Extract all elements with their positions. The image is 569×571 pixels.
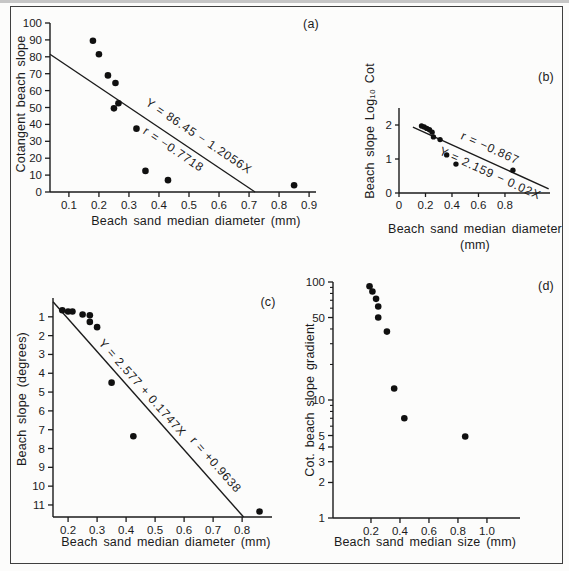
panel-c-y-tick-label: 10 (32, 480, 45, 492)
panel-d-y-tick-label: 100 (306, 276, 325, 288)
panel-d-point (369, 288, 376, 295)
panel-d-point (462, 433, 469, 440)
panel-a-y-tick-label: 10 (29, 169, 42, 181)
panel-a-point (112, 80, 119, 87)
panel-a-point (291, 182, 298, 189)
panel-c-point (94, 324, 101, 331)
panel-a-y-tick-label: 100 (23, 17, 42, 29)
panel-d-point (375, 303, 382, 310)
panel-c-y-tick-label: 8 (39, 443, 45, 455)
panel-c-point (130, 433, 137, 440)
panel-label-a: (a) (303, 17, 319, 31)
panel-d-point (373, 296, 380, 303)
panel-a-x-tick-label: 0.3 (121, 199, 137, 211)
panel-a-y-tick-label: 80 (29, 51, 42, 63)
panel-a-y-tick-label: 30 (29, 135, 42, 147)
panel-b-x-tick-label: 0.4 (444, 199, 461, 211)
panel-b-xlabel: Beach sand median diameter (388, 222, 562, 236)
panel-c-point (59, 307, 66, 314)
panel-label-c: (c) (260, 295, 275, 309)
panel-a-point (133, 125, 140, 132)
panel-c-xlabel: Beach sand median diameter (mm) (61, 535, 270, 549)
panel-d-y-tick-label: 5 (319, 430, 325, 442)
panel-label-d: (d) (538, 279, 554, 293)
panel-b-ylabel: Beach slope Log₁₀ Cot (363, 63, 377, 199)
panel-d-xlabel: Beach sand median size (mm) (334, 535, 516, 549)
panel-a-x-tick-label: 0.8 (271, 199, 287, 211)
panel-c-ylabel: Beach slope (degrees) (15, 332, 29, 466)
panel-b-x-tick-label: 0.8 (497, 199, 513, 211)
panel-d-ylabel: Cot. beach slope gradient (303, 323, 317, 476)
panel-d-y-tick-label: 4 (319, 441, 326, 453)
panel-a-point (142, 168, 149, 175)
panel-a-y-tick-label: 0 (36, 186, 42, 198)
panel-d-point (401, 415, 408, 422)
panel-c-annotation: Y = 2.577 + 0.1747X (96, 336, 189, 439)
panel-d-point (384, 328, 391, 335)
panel-d-y-tick-label: 2 (319, 476, 325, 488)
panel-b-y-tick-label: 1 (386, 153, 392, 165)
panel-a-y-tick-label: 50 (29, 102, 42, 114)
panel-c-point (79, 311, 86, 318)
panel-a-x-tick-label: 0.7 (241, 199, 257, 211)
panel-b-point (510, 168, 515, 173)
panel-a-point (105, 72, 112, 79)
panel-a-x-tick-label: 0.2 (91, 199, 107, 211)
panel-b-xlabel-units: (mm) (460, 238, 490, 252)
panel-a-x-tick-label: 0.1 (61, 199, 77, 211)
panel-a-fit-line (50, 54, 255, 192)
panel-d-y-tick-label: 1 (319, 512, 325, 524)
panel-c-y-tick-label: 4 (39, 367, 46, 379)
panel-d-y-tick-label: 3 (319, 456, 325, 468)
panel-a-x-tick-label: 0.4 (151, 199, 168, 211)
panel-c-point (87, 319, 94, 326)
panel-a-point (96, 51, 103, 58)
panel-b-y-tick-label: 2 (386, 119, 392, 131)
panel-b-y-tick-label: 0 (386, 187, 392, 199)
scatter-plots-canvas: 0.10.20.30.40.50.60.70.80.90102030405060… (0, 0, 569, 571)
panel-a-y-tick-label: 20 (29, 152, 42, 164)
panel-a-point (90, 37, 97, 44)
panel-c-y-tick-label: 11 (33, 499, 45, 511)
panel-a-y-tick-label: 40 (29, 118, 42, 130)
panel-c-fit-line (53, 302, 244, 517)
panel-d-y-tick-label: 50 (312, 312, 325, 324)
panel-a-xlabel: Beach sand median diameter (mm) (91, 214, 300, 228)
panel-c-y-tick-label: 3 (39, 348, 45, 360)
panel-c-y-tick-label: 9 (39, 461, 45, 473)
panel-b-x-tick-label: 0.6 (470, 199, 486, 211)
panel-a-x-tick-label: 0.6 (211, 199, 227, 211)
panel-b-x-tick-label: 0.2 (417, 199, 433, 211)
panel-d-point (375, 314, 382, 321)
panel-c-point (69, 308, 76, 315)
panel-a-y-tick-label: 90 (29, 34, 42, 46)
panel-d-point (391, 385, 398, 392)
panel-c-y-tick-label: 1 (39, 311, 45, 323)
panel-b-point (431, 134, 436, 139)
panel-b-x-tick-label: 0 (396, 199, 402, 211)
panel-label-b: (b) (538, 70, 554, 84)
panel-c-y-tick-label: 7 (39, 424, 45, 436)
panel-c-y-tick-label: 5 (39, 386, 45, 398)
panel-c-y-tick-label: 2 (39, 330, 45, 342)
panel-a-point (165, 177, 172, 184)
panel-a-ylabel: Cotangent beach slope (14, 36, 28, 173)
panel-c-point (256, 508, 263, 515)
panel-b-point (429, 129, 434, 134)
panel-c-point (108, 379, 115, 386)
panel-a-y-tick-label: 60 (29, 85, 42, 97)
panel-a-point (115, 100, 122, 107)
panel-c-point (87, 312, 94, 319)
panel-a-x-tick-label: 0.5 (181, 199, 197, 211)
panel-a-point (111, 105, 118, 112)
panel-b-point (437, 137, 442, 142)
panel-c-y-tick-label: 6 (39, 405, 45, 417)
panel-a-y-tick-label: 70 (29, 68, 42, 80)
panel-a-x-tick-label: 0.9 (301, 199, 317, 211)
